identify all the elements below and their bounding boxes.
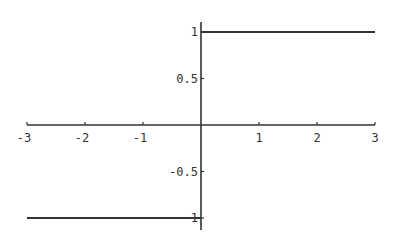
- x-tick-label: 2: [313, 131, 320, 145]
- y-tick-label: -0.5: [169, 165, 198, 179]
- x-tick-label: 1: [255, 131, 262, 145]
- y-tick-label: 0.5: [176, 72, 198, 86]
- x-tick-label: 3: [371, 131, 378, 145]
- x-tick-label: -3: [17, 131, 31, 145]
- y-tick-label: 1: [191, 25, 198, 39]
- step-function-plot: -3-2-112310.5-0.51: [0, 0, 400, 241]
- y-tick-label: 1: [191, 211, 198, 225]
- x-tick-label: -1: [133, 131, 147, 145]
- x-tick-label: -2: [75, 131, 89, 145]
- axes: [27, 22, 375, 230]
